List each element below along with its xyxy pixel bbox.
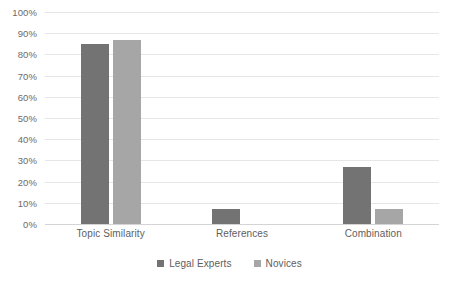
y-tick-label: 10% — [18, 197, 37, 208]
y-tick-label: 40% — [18, 134, 37, 145]
y-tick-label: 60% — [18, 91, 37, 102]
bar-group — [81, 12, 141, 224]
legend-swatch-icon — [254, 260, 261, 267]
y-axis: 0%10%20%30%40%50%60%70%80%90%100% — [0, 12, 41, 224]
x-tick-label: Combination — [345, 228, 402, 239]
y-tick-label: 90% — [18, 28, 37, 39]
chart-legend: Legal ExpertsNovices — [0, 258, 459, 269]
legend-item[interactable]: Legal Experts — [157, 258, 231, 269]
bar-group — [343, 12, 403, 224]
y-tick-label: 30% — [18, 155, 37, 166]
x-tick-label: Topic Similarity — [77, 228, 145, 239]
legend-item[interactable]: Novices — [254, 258, 302, 269]
bars-layer — [45, 12, 439, 224]
bar — [375, 209, 403, 224]
bar — [212, 209, 240, 224]
y-tick-label: 0% — [23, 219, 37, 230]
x-tick-label: References — [216, 228, 268, 239]
bar — [81, 44, 109, 224]
legend-swatch-icon — [157, 260, 164, 267]
x-axis: Topic SimilarityReferencesCombination — [45, 228, 439, 246]
legend-label: Novices — [266, 258, 302, 269]
y-tick-label: 100% — [12, 7, 37, 18]
y-tick-label: 50% — [18, 113, 37, 124]
y-tick-label: 20% — [18, 176, 37, 187]
bar-group — [212, 12, 272, 224]
y-tick-label: 70% — [18, 70, 37, 81]
legend-label: Legal Experts — [169, 258, 231, 269]
bar — [343, 167, 371, 224]
bar — [113, 40, 141, 224]
bar-chart: 0%10%20%30%40%50%60%70%80%90%100% Topic … — [0, 0, 459, 285]
axis-baseline — [45, 224, 439, 225]
y-tick-label: 80% — [18, 49, 37, 60]
